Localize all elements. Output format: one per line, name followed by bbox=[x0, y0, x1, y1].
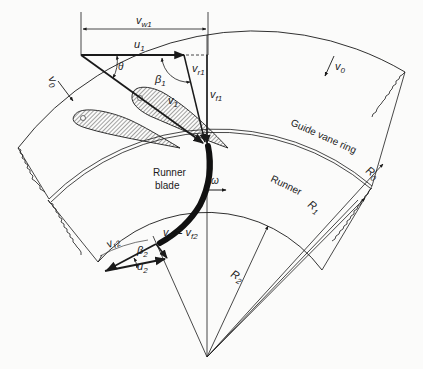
label-guide-vane-ring: Guide vane ring bbox=[289, 117, 358, 156]
label-vf1: vf1 bbox=[210, 88, 222, 103]
label-vr1: vr1 bbox=[192, 62, 205, 77]
label-v0-right: v0 bbox=[335, 60, 346, 75]
label-theta: θ bbox=[118, 61, 124, 72]
label-beta1: β1 bbox=[154, 73, 166, 88]
label-v2-vf2: v2 = vf2 bbox=[163, 226, 198, 241]
label-runner-blade-2: blade bbox=[155, 180, 180, 191]
label-runner: Runner bbox=[269, 173, 304, 198]
r2-radius-arrow bbox=[207, 226, 268, 357]
r2-line bbox=[207, 200, 358, 357]
label-vw1: vw1 bbox=[136, 14, 152, 29]
label-runner-blade-1: Runner bbox=[153, 167, 186, 178]
v0-right-arrow bbox=[325, 56, 334, 76]
label-beta2: β2 bbox=[136, 244, 148, 259]
label-r2: R2 bbox=[228, 267, 247, 286]
turbine-diagram: vw1 u1 θ β1 vr1 v1 vf1 v0 v0 Guide vane … bbox=[0, 0, 423, 369]
label-omega: ω bbox=[211, 175, 219, 186]
radius-lines bbox=[153, 35, 383, 357]
v0-left-arrow bbox=[58, 81, 73, 101]
label-r1: R1 bbox=[304, 198, 323, 217]
label-u1: u1 bbox=[134, 38, 145, 53]
theta-arc bbox=[113, 56, 117, 78]
runner-inner-arc bbox=[98, 212, 322, 270]
left-break-edge bbox=[18, 148, 102, 262]
right-break-edge bbox=[322, 72, 405, 270]
